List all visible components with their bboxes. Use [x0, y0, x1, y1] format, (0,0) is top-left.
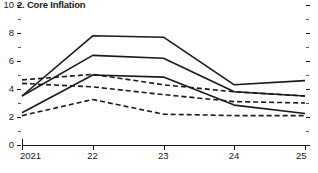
series-line-solid-upper [22, 36, 305, 96]
core-inflation-chart: 2. Core Inflation 0246810 202122232425 [0, 0, 318, 173]
plot-area [0, 0, 318, 173]
